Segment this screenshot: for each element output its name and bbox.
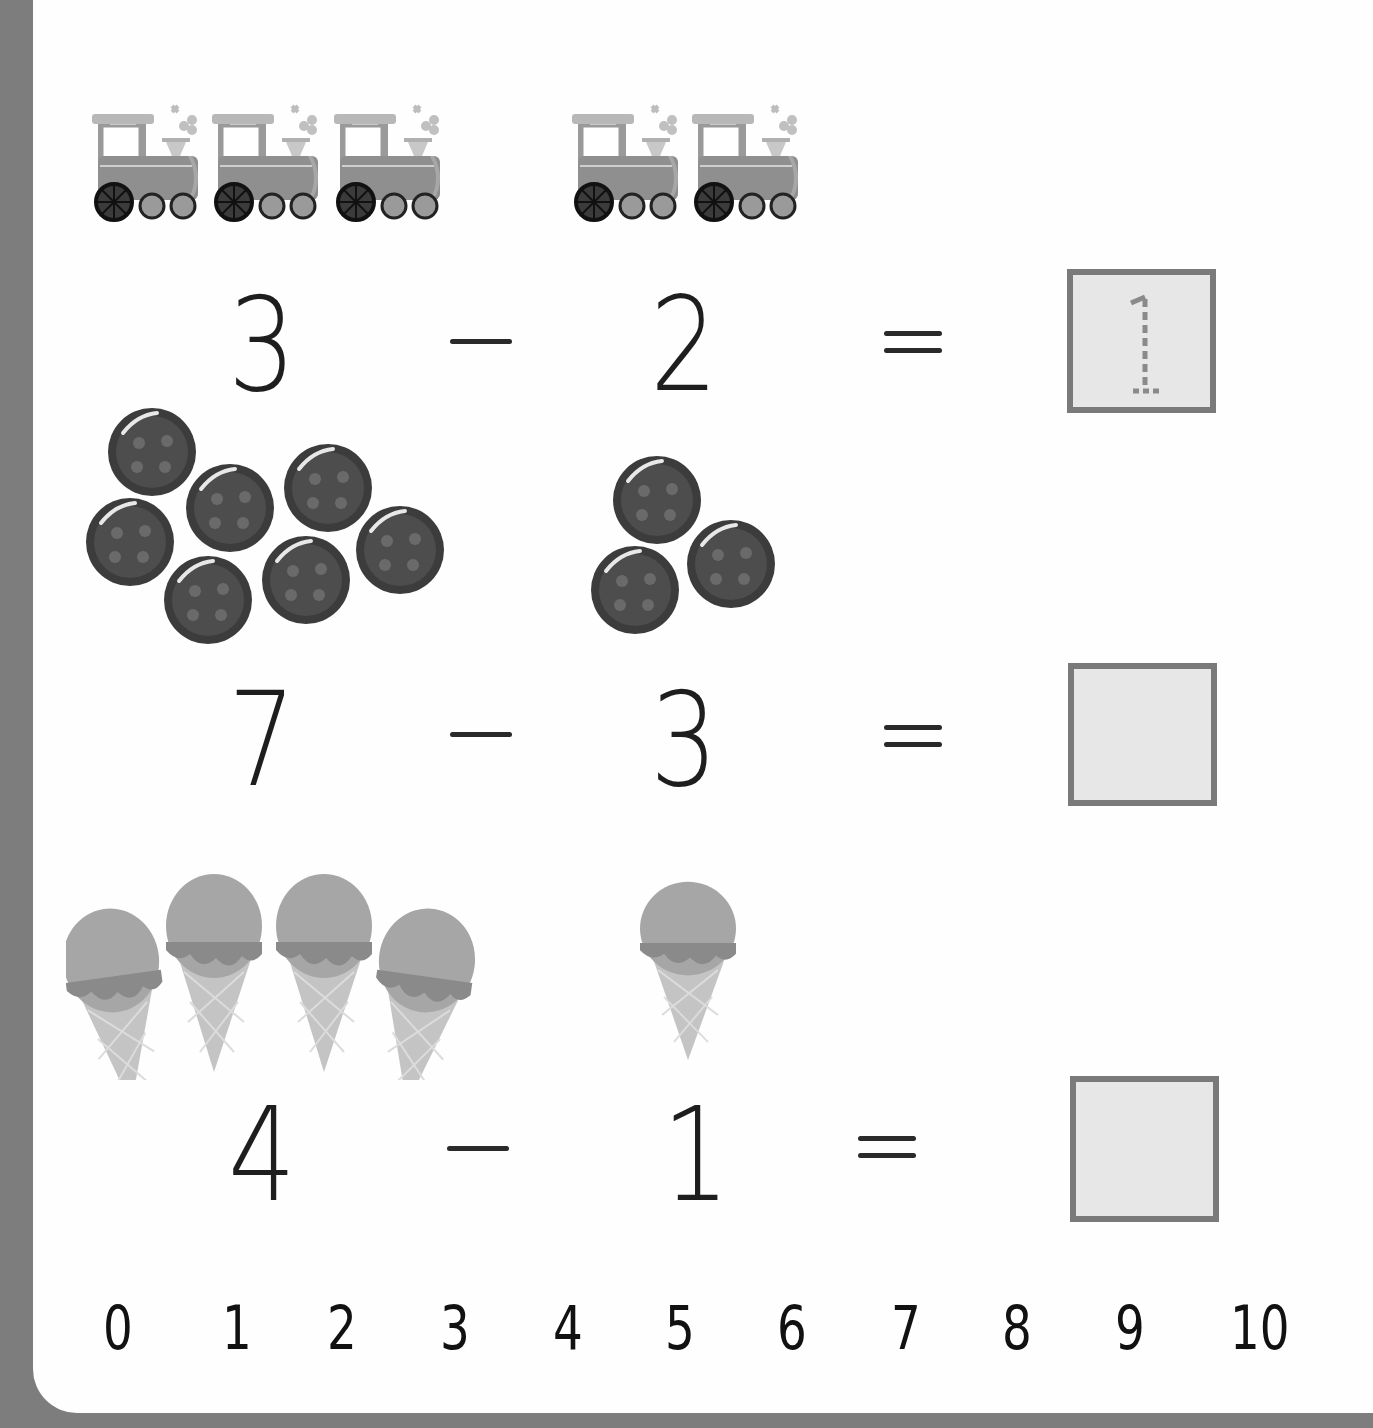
number-line-item: 8 bbox=[1002, 1298, 1032, 1358]
picture-group-left-ice-cream bbox=[66, 870, 476, 1084]
answer-box[interactable] bbox=[1067, 269, 1216, 413]
minuend: 7 bbox=[228, 675, 296, 805]
button-icon bbox=[590, 455, 790, 640]
minus-sign bbox=[447, 1146, 509, 1151]
subtrahend: 2 bbox=[650, 280, 718, 410]
ice-cream-cone-icon bbox=[66, 870, 476, 1080]
number-line-item: 6 bbox=[777, 1298, 807, 1358]
picture-group-left-buttons bbox=[85, 405, 455, 654]
number-line-item: 10 bbox=[1230, 1298, 1290, 1358]
subtrahend: 1 bbox=[662, 1090, 730, 1220]
equals-sign bbox=[858, 1136, 916, 1158]
equals-sign bbox=[884, 725, 942, 747]
train-icon bbox=[570, 90, 810, 230]
traced-answer-1 bbox=[1073, 275, 1210, 407]
train-icon bbox=[90, 90, 450, 230]
subtrahend: 3 bbox=[650, 675, 718, 805]
answer-box[interactable] bbox=[1070, 1076, 1219, 1222]
number-line-item: 2 bbox=[327, 1298, 357, 1358]
number-line-item: 3 bbox=[440, 1298, 470, 1358]
number-line-item: 0 bbox=[103, 1298, 133, 1358]
equals-sign bbox=[884, 331, 942, 353]
picture-group-right-ice-cream bbox=[638, 880, 740, 1064]
picture-group-left-trains bbox=[90, 90, 450, 234]
number-line-item: 9 bbox=[1115, 1298, 1145, 1358]
number-line-item: 4 bbox=[553, 1298, 583, 1358]
minus-sign bbox=[450, 339, 512, 344]
picture-group-right-trains bbox=[570, 90, 810, 234]
minus-sign bbox=[450, 732, 512, 737]
ice-cream-cone-icon bbox=[638, 880, 740, 1060]
picture-group-right-buttons bbox=[590, 455, 790, 644]
minuend: 4 bbox=[228, 1090, 296, 1220]
button-icon bbox=[85, 405, 455, 650]
number-line-item: 7 bbox=[891, 1298, 921, 1358]
number-line-item: 1 bbox=[222, 1298, 252, 1358]
minuend: 3 bbox=[228, 280, 296, 410]
number-line-item: 5 bbox=[665, 1298, 695, 1358]
answer-box[interactable] bbox=[1068, 663, 1217, 806]
